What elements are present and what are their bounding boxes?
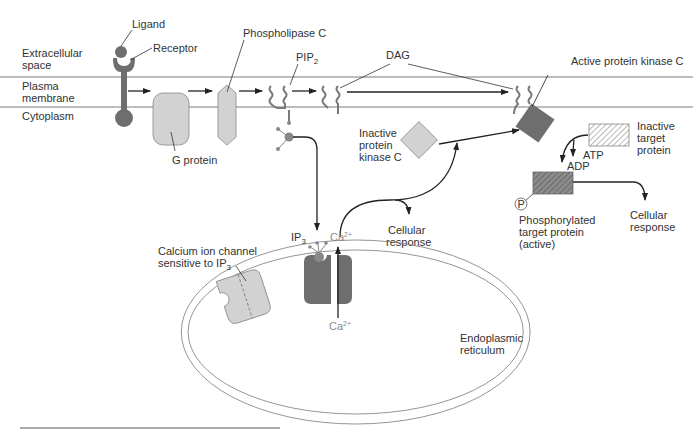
inactive-target-label-1: Inactive xyxy=(637,120,675,132)
cellular-response-1-label-1: Cellular xyxy=(388,224,426,236)
phosphorylated-label-1: Phosphorylated xyxy=(519,214,595,226)
active-pkc-label: Active protein kinase C xyxy=(571,55,684,67)
dag xyxy=(323,86,340,114)
calcium-channel-label-1: Calcium ion channel xyxy=(158,245,257,257)
pip2-label: PIP2 xyxy=(296,51,319,66)
ligand xyxy=(115,46,127,58)
phosphorylated-label-3: (active) xyxy=(519,238,555,250)
membrane-label-1: Plasma xyxy=(22,80,60,92)
er-label-2: reticulum xyxy=(460,344,505,356)
plasma-membrane xyxy=(0,77,693,107)
ca-bottom-label: Ca2+ xyxy=(329,320,351,332)
extracellular-label-1: Extracellular xyxy=(22,47,83,59)
ip3-label: IP3 xyxy=(291,231,306,246)
inactive-pkc-label-3: kinase C xyxy=(359,151,402,163)
receptor xyxy=(113,58,135,127)
cellular-response-2-label-2: response xyxy=(630,221,675,233)
ip3-dag-signaling-diagram: Extracellular space Plasma membrane Cyto… xyxy=(0,0,693,429)
er-label-1: Endoplasmic xyxy=(460,332,523,344)
phosphate-label: P xyxy=(518,198,525,210)
dag-label: DAG xyxy=(386,49,410,61)
phospholipase-c xyxy=(218,85,236,145)
inactive-pkc-label-2: protein xyxy=(359,139,393,151)
cytoplasm-label: Cytoplasm xyxy=(22,110,74,122)
inactive-target-protein xyxy=(589,124,629,146)
inactive-pkc-label-1: Inactive xyxy=(359,127,397,139)
ip3-head xyxy=(276,121,294,151)
phosphorylated-target-protein xyxy=(533,172,573,194)
ca-top-label: Ca2+ xyxy=(330,231,352,243)
ligand-label: Ligand xyxy=(132,18,165,30)
calcium-channel-label-2: sensitive to IP3 xyxy=(158,257,231,272)
membrane-label-2: membrane xyxy=(22,92,75,104)
extracellular-label-2: space xyxy=(22,59,51,71)
g-protein-label: G protein xyxy=(172,154,217,166)
inactive-pkc xyxy=(401,122,438,159)
receptor-label: Receptor xyxy=(153,42,198,54)
region-labels: Extracellular space Plasma membrane Cyto… xyxy=(22,47,83,122)
adp-label: ADP xyxy=(567,160,590,172)
g-protein xyxy=(153,93,189,145)
cellular-response-2-label-1: Cellular xyxy=(630,209,668,221)
inactive-target-label-2: target xyxy=(637,132,665,144)
phospholipase-c-label: Phospholipase C xyxy=(243,27,326,39)
pip2 xyxy=(270,86,290,122)
active-pkc xyxy=(516,104,555,143)
phosphorylated-label-2: target protein xyxy=(519,226,584,238)
inactive-target-label-3: protein xyxy=(637,144,671,156)
calcium-ion-channel xyxy=(216,268,272,325)
